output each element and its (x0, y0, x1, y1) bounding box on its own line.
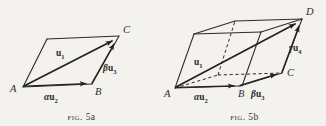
u3-subscript: 3 (113, 68, 117, 75)
vector-label-beta-u3: βu3 (250, 89, 265, 101)
u2-subscript: 2 (205, 97, 208, 104)
edge-topfront-B (242, 32, 261, 86)
vector-alpha-u2-shaft (177, 86, 234, 88)
vertex-label-A: A (163, 88, 171, 99)
vector-label-beta-u3: βu3 (102, 63, 117, 75)
figure-5b-caption: Fig. 5b (163, 112, 326, 122)
vertex-label-B: B (238, 88, 245, 99)
caption-number-5a: 5a (86, 112, 96, 122)
edge-topfront-D (261, 19, 302, 32)
vector-label-u1: u1 (194, 57, 203, 69)
vertex-label-C: C (123, 24, 131, 35)
edge-topback-D (235, 19, 302, 21)
hidden-edge-backbottom-topback (218, 21, 235, 75)
vector-label-alpha-u2: αu2 (44, 92, 58, 104)
figure-5a: A B C u1 αu2 βu3 Fig. 5a (0, 0, 163, 126)
u1-subscript: 1 (61, 53, 64, 60)
figure-5a-caption: Fig. 5a (0, 112, 163, 122)
vertex-label-C: C (287, 67, 295, 78)
edge-topleft-topback (194, 21, 235, 34)
vector-u1-arrow (24, 41, 112, 86)
u4-subscript: 4 (298, 48, 302, 55)
vertex-label-A: A (9, 83, 17, 94)
edge-CD (47, 36, 119, 39)
edge-topleft-topfront (194, 32, 261, 34)
u2-subscript: 2 (55, 97, 58, 104)
figure-5a-drawing: A B C u1 αu2 βu3 (0, 0, 163, 126)
figure-5b-drawing: A B C D u1 αu2 βu3 γu4 (163, 0, 326, 126)
vector-u1-arrow (176, 24, 295, 87)
figure-plate: A B C u1 αu2 βu3 Fig. 5a (0, 0, 326, 126)
vertex-label-D: D (305, 6, 314, 17)
vector-label-gamma-u4: γu4 (289, 43, 302, 55)
vector-u1-shaft (24, 41, 112, 86)
hidden-edge-backbottom-C (218, 73, 282, 75)
caption-number-5b: 5b (248, 112, 258, 122)
vector-label-alpha-u2: αu2 (194, 92, 208, 104)
vector-label-u1: u1 (56, 48, 65, 60)
vertex-label-B: B (95, 86, 102, 97)
u1-subscript: 1 (199, 62, 202, 69)
vector-alpha-u2-arrow (177, 86, 234, 88)
caption-prefix-5b: Fig. (230, 112, 245, 122)
figure-5b: A B C D u1 αu2 βu3 γu4 Fig. 5b (163, 0, 326, 126)
u3-subscript: 3 (261, 94, 265, 101)
caption-prefix-5a: Fig. (68, 112, 83, 122)
vector-u1-shaft (176, 24, 295, 87)
